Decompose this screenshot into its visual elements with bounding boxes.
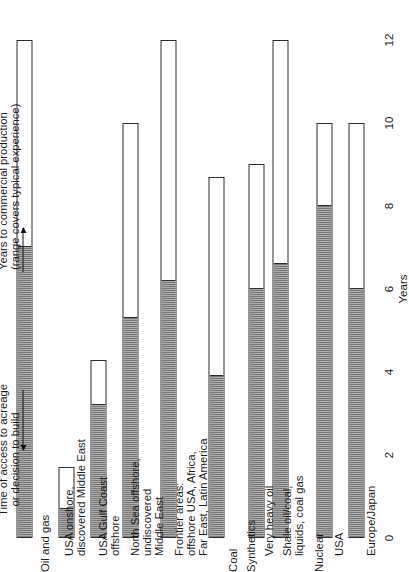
x-tick-2: 2 [382, 452, 394, 458]
category-label-shale-line1: Shale oil/coal, [280, 486, 293, 556]
category-label-gulf-coast-line1: USA Gulf Coast [96, 477, 109, 556]
category-label-nuclear: Nuclear [312, 533, 325, 572]
category-label-oil-and-gas: Oil and gas [38, 515, 51, 572]
bar-segment-access [249, 288, 263, 537]
x-tick-12: 12 [382, 34, 394, 47]
x-tick-4: 4 [382, 369, 394, 375]
category-label-synthetics: Synthetics [244, 520, 257, 572]
bar-nuclear-europe-japan [348, 123, 364, 538]
bar-segment-access [349, 288, 363, 537]
bar-nuclear-usa [316, 123, 332, 538]
category-label-europe-japan: Europe/Japan [364, 486, 377, 556]
x-axis-title: Years [396, 275, 408, 304]
category-label-frontier-line2: offshore USA, Africa, [184, 451, 197, 556]
category-label-usa-onshore-line2: discovered Middle East [74, 439, 87, 556]
bar-segment-access [209, 375, 223, 537]
category-label-north-sea-line3: Middle East [152, 497, 165, 556]
bar-shale-oil-coal-liquids-coal-gas [272, 40, 288, 538]
annotation-arrow-production [22, 228, 23, 272]
category-label-coal: Coal [226, 549, 239, 572]
category-label-usa: USA [332, 533, 345, 556]
category-label-shale-line2: liquids, coal gas [292, 476, 305, 556]
category-label-gulf-coast-line2: offshore [108, 515, 121, 556]
category-label-usa-onshore-line1: USA onshore, [62, 486, 75, 556]
bar-segment-access [317, 205, 331, 537]
bar-frontier-areas [160, 40, 176, 538]
category-label-frontier-line3: Far East, Latin America [196, 439, 209, 556]
annotation-access-line1: Time of access to acreage [0, 384, 9, 516]
annotation-access-line2: or decision to build [8, 412, 21, 516]
annotation-arrow-access [22, 390, 23, 450]
x-tick-8: 8 [382, 203, 394, 209]
x-tick-6: 6 [382, 286, 394, 292]
bar-very-heavy-oil [248, 165, 264, 539]
bar-coal [208, 177, 224, 538]
annotation-production-line1: Years to commercial production [0, 112, 9, 270]
category-label-north-sea-line1: North Sea offshore, [128, 458, 141, 556]
category-label-very-heavy-oil: Very heavy oil [262, 486, 275, 556]
x-tick-10: 10 [382, 117, 394, 130]
category-label-north-sea-line2: undiscovered [140, 489, 153, 556]
category-label-frontier-line1: Frontier areas: [172, 483, 185, 556]
x-tick-0: 0 [382, 535, 394, 541]
annotation-production-line2: (range covers typical experience) [8, 104, 21, 270]
